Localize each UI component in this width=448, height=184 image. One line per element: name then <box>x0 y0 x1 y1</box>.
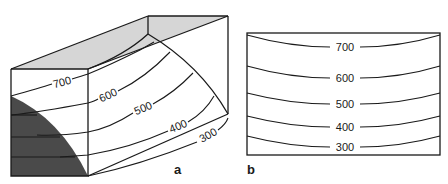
contour-label-700-b: 700 <box>336 41 354 53</box>
contour-label-600-b: 600 <box>336 72 354 84</box>
panel-label-a: a <box>174 162 182 177</box>
curved-surface-outer-edge <box>148 34 228 114</box>
contour-label-500-b: 500 <box>336 98 354 110</box>
contour-label-300-a: 300 <box>197 125 219 145</box>
panel-a: 700 600 500 400 300 a <box>11 16 228 177</box>
contour-label-600-a: 600 <box>97 86 119 105</box>
contour-label-700-a: 700 <box>52 74 73 90</box>
block-edge-bottom-right <box>88 114 228 176</box>
top-face <box>11 16 228 69</box>
contour-label-500-a: 500 <box>132 99 154 117</box>
contour-label-300-b: 300 <box>336 141 354 153</box>
panel-label-b: b <box>247 162 255 177</box>
contour-label-400-b: 400 <box>336 121 354 133</box>
panel-b: 700 600 500 400 300 b <box>247 33 440 177</box>
figure-canvas: 700 600 500 400 300 a 700 600 500 400 30… <box>0 0 448 184</box>
dark-body <box>11 96 88 176</box>
